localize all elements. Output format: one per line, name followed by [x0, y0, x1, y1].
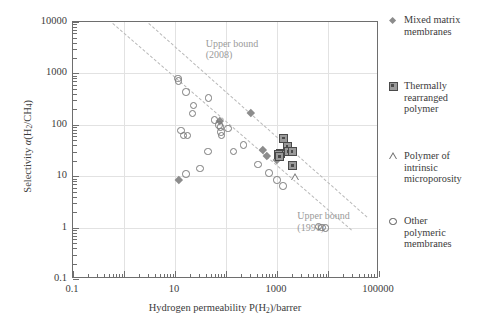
y-axis-tick-minor [73, 58, 77, 59]
y-axis-tick-minor [73, 100, 77, 101]
x-axis-tick-minor [320, 274, 321, 278]
data-point-circle [175, 77, 183, 85]
x-axis-tick-minor [215, 274, 216, 278]
y-axis-tick-minor [73, 136, 77, 137]
legend-label-line: Polymer of [404, 150, 462, 162]
diamond-icon-shape [389, 17, 396, 24]
robeson-plot-figure: Upper bound(2008)Upper bound(1991) Hydro… [0, 0, 490, 323]
legend-item[interactable]: Polymer ofintrinsicmicroporosity [388, 150, 488, 185]
y-axis-title-open: (H [22, 129, 33, 140]
data-point-circle [182, 170, 190, 178]
x-axis-tick-minor [170, 274, 171, 278]
annotation-line-2: (2008) [206, 49, 259, 61]
y-axis-tick-minor [73, 248, 77, 249]
annotation-line-1: Upper bound [297, 210, 350, 222]
y-axis-tick-minor [73, 133, 77, 134]
legend-item-label: Mixed matrixmembranes [404, 14, 460, 37]
y-axis-tick-minor [73, 85, 77, 86]
plot-area: Upper bound(2008)Upper bound(1991) [72, 21, 378, 278]
y-axis-tick-minor [73, 78, 77, 79]
x-axis-title: Hydrogen permeability P(H2)/barrer [72, 302, 378, 315]
x-axis-tick-minor [224, 274, 225, 278]
gridline-horizontal [73, 176, 377, 177]
data-point-square [288, 147, 297, 156]
y-axis-tick-minor [73, 130, 77, 131]
legend-label-line: membranes [404, 238, 451, 250]
x-axis-tick-minor [359, 274, 360, 278]
y-axis-tick-minor [73, 161, 77, 162]
legend-label-line: polymeric [404, 227, 451, 239]
y-axis-tick-minor [73, 255, 77, 256]
y-axis-tick-label: 1000 [10, 67, 67, 78]
y-axis-tick-minor [73, 140, 77, 141]
y-axis-tick-minor [73, 127, 77, 128]
x-axis-tick-minor [139, 274, 140, 278]
x-axis-tick-minor [167, 274, 168, 278]
x-axis-tick-label: 10 [144, 284, 204, 295]
gridline-vertical [175, 22, 176, 277]
triangle-icon [388, 150, 399, 162]
y-axis-tick-label: 10 [10, 170, 67, 181]
y-axis-tick-label: 10000 [10, 16, 67, 27]
y-axis-tick-label: 100 [10, 119, 67, 130]
x-axis-tick-minor [317, 274, 318, 278]
x-axis-tick-minor [113, 274, 114, 278]
data-point-circle [230, 148, 238, 156]
x-axis-tick-major [277, 271, 278, 277]
legend-item[interactable]: Mixed matrixmembranes [388, 14, 488, 37]
y-axis-tick-minor [73, 33, 77, 34]
square-icon [388, 80, 399, 92]
y-axis-tick-label: 0.1 [10, 273, 67, 284]
y-axis-title-sub2: 4 [25, 103, 34, 107]
y-axis-title-close: ) [22, 100, 33, 104]
legend-item[interactable]: Thermallyrearrangedpolymer [388, 80, 488, 115]
x-axis-tick-minor [218, 274, 219, 278]
x-axis-tick-label: 0.1 [42, 284, 102, 295]
data-point-diamond [175, 176, 183, 184]
y-axis-tick-major [73, 228, 79, 229]
data-point-circle [265, 169, 273, 177]
square-icon-shape [389, 82, 398, 91]
y-axis-tick-minor [73, 212, 77, 213]
legend-item-label: Polymer ofintrinsicmicroporosity [404, 150, 462, 185]
x-axis-tick-major [124, 271, 125, 277]
x-axis-tick-minor [269, 274, 270, 278]
diamond-icon [388, 14, 399, 26]
x-axis-tick-minor [119, 274, 120, 278]
circle-icon [388, 215, 399, 227]
data-point-circle [224, 125, 232, 133]
x-axis-tick-minor [377, 274, 378, 278]
y-axis-tick-major [73, 125, 79, 126]
x-axis-tick-minor [160, 274, 161, 278]
y-axis-tick-minor [73, 181, 77, 182]
x-axis-tick-minor [313, 274, 314, 278]
y-axis-tick-minor [73, 239, 77, 240]
data-point-circle [279, 182, 287, 190]
data-point-circle [196, 165, 204, 173]
x-axis-tick-minor [250, 274, 251, 278]
x-axis-tick-minor [323, 274, 324, 278]
x-axis-tick-minor [97, 274, 98, 278]
y-axis-tick-minor [73, 43, 77, 44]
y-axis-tick-major [73, 73, 79, 74]
y-axis-tick-minor [73, 38, 77, 39]
legend-label-line: Thermally [404, 80, 448, 92]
legend-item[interactable]: Otherpolymericmembranes [388, 215, 488, 250]
x-axis-tick-major [73, 271, 74, 277]
x-axis-tick-minor [374, 274, 375, 278]
x-axis-tick-minor [266, 274, 267, 278]
x-axis-tick-minor [122, 274, 123, 278]
data-point-circle [182, 88, 190, 96]
x-axis-tick-minor [257, 274, 258, 278]
data-point-circle [218, 132, 226, 140]
data-point-triangle [291, 173, 299, 180]
x-axis-tick-major [226, 271, 227, 277]
x-axis-tick-minor [326, 274, 327, 278]
x-axis-tick-major [175, 271, 176, 277]
x-axis-tick-minor [275, 274, 276, 278]
y-axis-tick-major [73, 176, 79, 177]
gridline-horizontal [73, 73, 377, 74]
x-axis-title-suffix: )/barrer [270, 302, 301, 313]
y-axis-tick-major [73, 279, 79, 280]
x-axis-tick-minor [199, 274, 200, 278]
